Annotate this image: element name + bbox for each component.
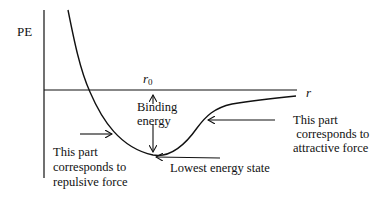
attractive-line3: attractive force [293, 141, 369, 155]
x-axis-label: r [306, 86, 311, 100]
attractive-line1: This part [293, 113, 369, 127]
potential-energy-diagram: PE r r0 Binding energy This part corresp… [0, 0, 388, 201]
r0-subscript: 0 [148, 77, 153, 87]
binding-energy-line2: energy [137, 114, 177, 128]
repulsive-force-label: This part corresponds to repulsive force [53, 145, 128, 190]
attractive-force-label: This part corresponds to attractive forc… [293, 113, 369, 155]
y-axis-label: PE [17, 25, 32, 39]
repulsive-line2: corresponds to [53, 160, 128, 175]
lowest-energy-label: Lowest energy state [170, 161, 270, 175]
binding-energy-line1: Binding [137, 100, 177, 114]
repulsive-line3: repulsive force [53, 175, 128, 190]
attractive-line2: corresponds to [293, 127, 369, 141]
repulsive-line1: This part [53, 145, 128, 160]
lowest-energy-arrow [156, 157, 220, 158]
equilibrium-distance-label: r0 [143, 72, 153, 89]
binding-energy-label: Binding energy [137, 100, 177, 128]
